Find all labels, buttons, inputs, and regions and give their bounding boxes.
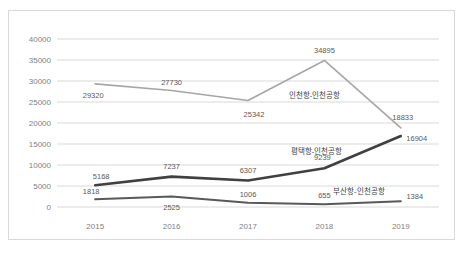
data-label: 34895 [314, 46, 335, 55]
data-label: 2525 [163, 203, 180, 212]
chart-container: 0500010000150002000025000300003500040000… [8, 10, 455, 240]
x-tick-label: 2016 [163, 222, 181, 231]
data-label: 7237 [163, 162, 180, 171]
y-tick-label: 10000 [29, 161, 52, 170]
series-annotation: 인천항-인천공항 [289, 90, 341, 100]
y-tick-label: 25000 [29, 98, 52, 107]
data-label: 5168 [93, 172, 110, 181]
x-axis-tick-labels: 20152016201720182019 [86, 222, 410, 231]
data-label: 29320 [83, 91, 104, 100]
y-tick-label: 30000 [29, 77, 52, 86]
y-axis-tick-labels: 0500010000150002000025000300003500040000 [29, 35, 52, 212]
data-label: 655 [318, 191, 331, 200]
series-annotation: 부산항-인천공항 [333, 186, 385, 196]
data-label: 18833 [392, 113, 413, 122]
series-name-annotations: 인천항-인천공항평택항-인천공항부산항-인천공항 [289, 90, 385, 196]
series-line [95, 136, 401, 185]
y-tick-label: 15000 [29, 140, 52, 149]
data-label: 16904 [406, 134, 427, 143]
y-tick-label: 20000 [29, 119, 52, 128]
data-label: 27730 [161, 78, 182, 87]
series-lines [95, 60, 401, 204]
x-tick-label: 2018 [316, 222, 334, 231]
series-annotation: 평택항-인천공항 [291, 146, 343, 156]
y-tick-label: 35000 [29, 56, 52, 65]
x-tick-label: 2017 [239, 222, 257, 231]
x-tick-label: 2015 [86, 222, 104, 231]
x-tick-label: 2019 [392, 222, 410, 231]
data-label: 1006 [240, 190, 257, 199]
data-label: 1384 [406, 192, 423, 201]
line-chart: 0500010000150002000025000300003500040000… [9, 11, 454, 239]
y-tick-label: 40000 [29, 35, 52, 44]
data-label: 25342 [244, 110, 265, 119]
y-tick-label: 0 [47, 203, 52, 212]
y-tick-label: 5000 [33, 182, 51, 191]
data-label: 1818 [83, 187, 100, 196]
data-label: 6307 [240, 166, 257, 175]
